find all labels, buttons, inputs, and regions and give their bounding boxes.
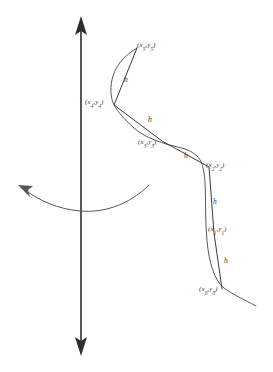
point-label-p1: (x1,y1)	[208, 226, 227, 233]
step-label-h3: h	[148, 116, 152, 124]
curved-horizontal-axis	[25, 185, 149, 211]
point-label-p3: (x3,y3)	[138, 139, 157, 146]
step-label-h2: h	[184, 152, 188, 160]
step-label-h1: h	[213, 198, 217, 206]
solution-curve	[111, 48, 256, 306]
figure-canvas	[0, 0, 273, 372]
point-label-p0: (x0,y0)	[199, 286, 218, 293]
point-label-p4: (x4,y4)	[85, 99, 104, 106]
point-label-p2: (x2,y2)	[206, 162, 225, 169]
curved-arrowhead-icon	[18, 185, 33, 197]
step-label-h0: h	[224, 257, 228, 265]
euler-method-figure: (x0,y0) (x1,y1) (x2,y2) (x3,y3) (x4,y4) …	[0, 0, 273, 372]
point-label-p5: (x5,y5)	[137, 42, 156, 49]
step-label-h4: h	[124, 76, 128, 84]
